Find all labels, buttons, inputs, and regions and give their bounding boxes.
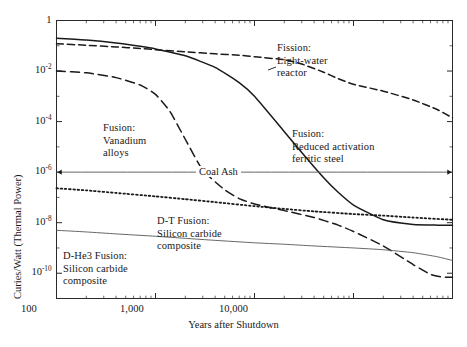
annotation-vanadium-line3: alloys — [103, 147, 146, 160]
x-axis-title: Years after Shutdown — [0, 319, 467, 330]
annotation-coal-ash: Coal Ash — [196, 166, 241, 177]
annotation-fission-line3: reactor — [277, 67, 328, 80]
y-tick-label: 10-6 — [35, 165, 52, 176]
annotation-ferritic-steel: Fusion: Reduced activation ferritic stee… — [292, 128, 375, 166]
annotation-vanadium-line2: Vanadium — [103, 135, 146, 148]
annotation-vanadium-line1: Fusion: — [103, 122, 146, 135]
annotation-ferritic-line2: Reduced activation — [292, 141, 375, 154]
annotation-vanadium: Fusion: Vanadium alloys — [103, 122, 146, 160]
annotation-ferritic-line3: ferritic steel — [292, 153, 375, 166]
x-tick-label: 10,000 — [219, 303, 248, 314]
annotation-dhe3-line3: composite — [63, 275, 128, 288]
annotation-ferritic-line1: Fusion: — [292, 128, 375, 141]
annotation-dt-line2: Silicon carbide — [157, 228, 222, 241]
annotation-fission-line1: Fission: — [277, 42, 328, 55]
y-tick-label: 1 — [46, 14, 51, 25]
y-tick-label: 10-10 — [31, 266, 51, 277]
series-line — [57, 44, 453, 118]
x-tick-label: 1,000 — [120, 303, 144, 314]
series-line — [57, 71, 453, 277]
annotation-fission-line2: Light-water — [277, 55, 328, 68]
y-axis-title: Curies/Watt (Thermal Power) — [12, 174, 23, 299]
annotation-dhe3-line1: D-He3 Fusion: — [63, 250, 128, 263]
y-tick-label: 10-4 — [35, 115, 52, 126]
annotation-dt-fusion: D-T Fusion: Silicon carbide composite — [157, 215, 222, 253]
annotation-dt-line1: D-T Fusion: — [157, 215, 222, 228]
annotation-dhe3-fusion: D-He3 Fusion: Silicon carbide composite — [63, 250, 128, 288]
figure-root: 110-210-410-610-810-10 1101001,00010,000… — [0, 0, 467, 347]
annotation-fission: Fission: Light-water reactor — [277, 42, 328, 80]
x-tick-label: 100 — [21, 303, 37, 314]
annotation-dhe3-line2: Silicon carbide — [63, 263, 128, 276]
annotation-dt-line3: composite — [157, 240, 222, 253]
y-tick-label: 10-8 — [35, 216, 52, 227]
y-tick-label: 10-2 — [35, 64, 52, 75]
